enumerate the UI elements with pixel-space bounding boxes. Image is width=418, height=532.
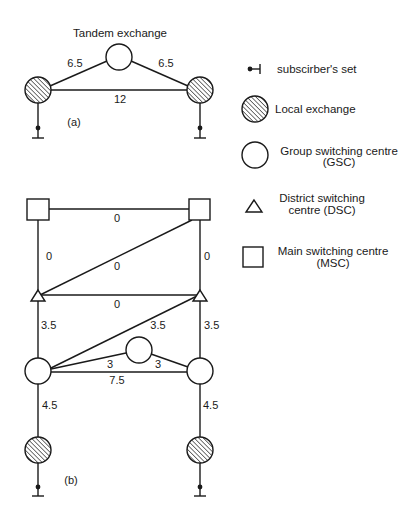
tandem-exchange-title: Tandem exchange xyxy=(73,27,167,39)
link-gsc-left-gsc-mid xyxy=(51,353,126,369)
legend-item-dsc: District switching centre (DSC) xyxy=(246,192,365,216)
legend-item-subscriber-set: subscirber's set xyxy=(248,63,358,75)
link-label-left-right: 12 xyxy=(114,93,126,105)
link-gsc-left-dsc-right xyxy=(51,296,197,368)
network-diagram: Tandem exchange 6.5 6.5 12 (a) xyxy=(0,0,418,532)
local-exchange-right-node xyxy=(187,437,213,463)
diagram-a: Tandem exchange 6.5 6.5 12 (a) xyxy=(25,27,213,138)
legend: subscirber's set Local exchange Group sw… xyxy=(242,63,398,269)
caption-b: (b) xyxy=(64,474,77,486)
local-exchange-left-node xyxy=(25,77,51,103)
subscriber-set-icon xyxy=(32,463,44,496)
gsc-left-node xyxy=(25,358,51,384)
legend-label: Main switching centre xyxy=(278,245,389,257)
link-label-gsc-left-gsc-mid: 3 xyxy=(107,358,113,370)
legend-label: District switching xyxy=(279,192,365,204)
link-label-gsc-left-dsc-right: 3.5 xyxy=(150,319,165,331)
subscriber-set-icon xyxy=(32,103,44,138)
local-exchange-icon xyxy=(242,96,268,122)
main-switching-centre-icon xyxy=(243,247,263,267)
legend-item-gsc: Group switching centre (GSC) xyxy=(242,142,398,168)
legend-label-line2: centre (DSC) xyxy=(288,204,355,216)
tandem-exchange-node xyxy=(106,44,132,70)
msc-left-node xyxy=(27,199,49,220)
link-label-gsc-left-le-left: 4.5 xyxy=(42,399,57,411)
msc-right-node xyxy=(189,199,210,220)
link-label-dsc-left-gsc-left: 3.5 xyxy=(41,319,56,331)
link-label-tandem-right: 6.5 xyxy=(158,57,173,69)
subscriber-set-icon xyxy=(194,103,206,138)
link-label-msc-left-dsc-left: 0 xyxy=(46,250,52,262)
legend-label: Local exchange xyxy=(275,103,356,115)
local-exchange-right-node xyxy=(187,77,213,103)
legend-label-line2: (MSC) xyxy=(316,257,349,269)
diagram-b: 0 0 0 0 0 3.5 3.5 3.5 3 3 7.5 4.5 4.5 xyxy=(25,199,219,496)
group-switching-centre-icon xyxy=(242,142,268,168)
link-label-msc-right-dsc-left: 0 xyxy=(114,260,120,272)
caption-a: (a) xyxy=(67,116,80,128)
legend-item-msc: Main switching centre (MSC) xyxy=(243,245,388,269)
gsc-right-node xyxy=(187,358,213,384)
legend-label-line2: (GSC) xyxy=(323,156,356,168)
gsc-middle-node xyxy=(126,337,152,363)
legend-item-local-exchange: Local exchange xyxy=(242,96,356,122)
link-label-dsc-right-gsc-right: 3.5 xyxy=(204,319,219,331)
link-label-gsc-mid-gsc-right: 3 xyxy=(155,358,161,370)
link-label-gsc-right-le-right: 4.5 xyxy=(203,399,218,411)
subscriber-set-icon xyxy=(194,463,206,496)
subscriber-set-icon xyxy=(248,64,260,74)
link-label-dsc-horizontal: 0 xyxy=(114,298,120,310)
link-msc-right-dsc-left xyxy=(40,220,192,295)
local-exchange-left-node xyxy=(25,437,51,463)
link-label-gsc-horizontal: 7.5 xyxy=(109,374,124,386)
link-label-msc-right-dsc-right: 0 xyxy=(204,250,210,262)
link-label-msc-top: 0 xyxy=(114,212,120,224)
district-switching-centre-icon xyxy=(246,200,262,212)
legend-label: subscirber's set xyxy=(277,63,357,75)
link-label-left-tandem: 6.5 xyxy=(67,57,82,69)
